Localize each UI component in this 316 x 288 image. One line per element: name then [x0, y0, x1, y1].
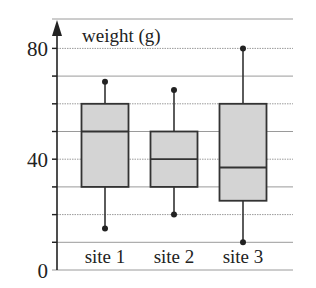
max-point	[240, 45, 246, 51]
y-tick-80: 80	[27, 37, 48, 61]
max-point	[102, 79, 108, 85]
min-point	[240, 239, 246, 245]
iqr-box	[220, 104, 267, 201]
box-2	[151, 87, 198, 218]
box-3	[220, 45, 267, 245]
y-axis	[52, 20, 62, 270]
y-tick-0: 0	[38, 259, 49, 283]
box-1	[82, 79, 129, 232]
y-axis-label: weight (g)	[82, 25, 161, 47]
y-axis-arrow-icon	[52, 20, 62, 36]
min-point	[171, 212, 177, 218]
min-point	[102, 225, 108, 231]
iqr-box	[82, 104, 129, 187]
category-label-site-3: site 3	[223, 246, 264, 267]
box-plot-chart: weight (g) 80 40 0 site 1 site 2 site 3	[0, 0, 316, 288]
category-label-site-2: site 2	[154, 246, 195, 267]
category-label-site-1: site 1	[85, 246, 126, 267]
y-tick-40: 40	[27, 148, 48, 172]
boxes	[82, 45, 267, 245]
max-point	[171, 87, 177, 93]
